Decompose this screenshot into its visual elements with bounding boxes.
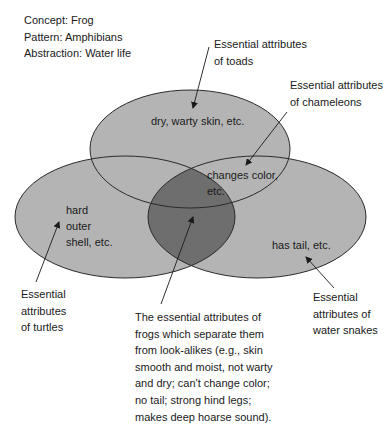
- chameleons-label: Essential attributes of chameleons: [290, 77, 383, 110]
- chameleons-inner-text: changes color, etc.: [207, 167, 278, 199]
- water-snakes-label: Essential attributes of water snakes: [313, 289, 378, 339]
- toads-inner-text: dry, warty skin, etc.: [151, 113, 244, 129]
- turtles-inner-text: hard outer shell, etc.: [66, 202, 112, 250]
- water-snakes-inner-text: has tail, etc.: [272, 237, 331, 253]
- turtles-label: Essential attributes of turtles: [21, 286, 66, 336]
- frog-description: The essential attributes of frogs which …: [135, 309, 273, 425]
- toads-label: Essential attributes of toads: [214, 36, 307, 69]
